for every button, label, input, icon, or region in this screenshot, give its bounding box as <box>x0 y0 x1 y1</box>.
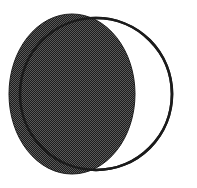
moon-shadow-disc <box>9 14 135 174</box>
moon-phase-svg <box>0 0 197 188</box>
moon-phase-figure: Moon Phase Diagram Waning gibbous moon: … <box>0 0 197 188</box>
